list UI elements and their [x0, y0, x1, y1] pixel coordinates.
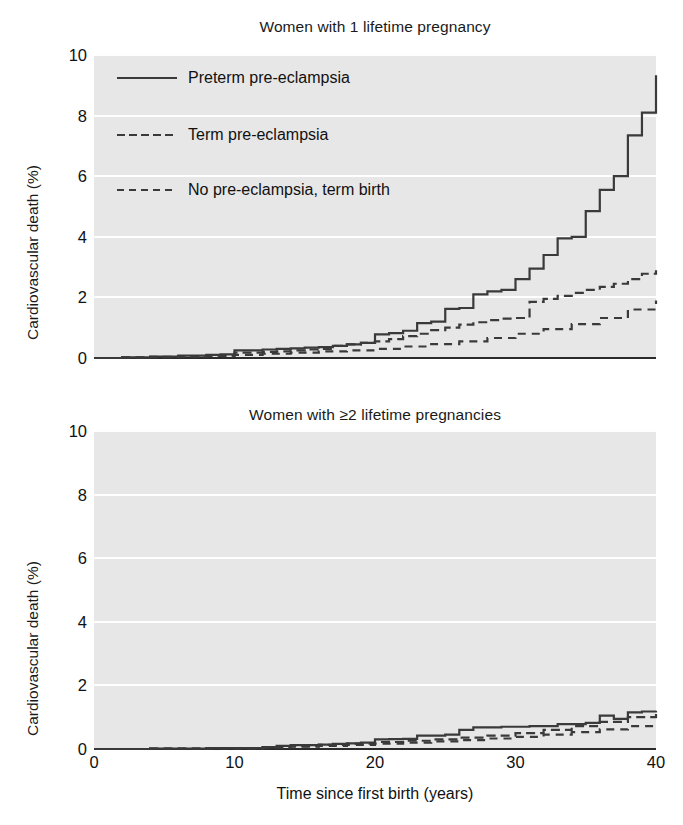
y-axis-tick-2: 2: [78, 288, 87, 307]
panel-bottom: Women with ≥2 lifetime pregnancies Cardi…: [0, 395, 683, 825]
curves-layer: [94, 431, 656, 749]
y-axis-tick-0: 0: [78, 740, 87, 759]
y-axis-tick-8: 8: [78, 106, 87, 125]
panel-top-y-axis-label: Cardiovascular death (%): [24, 165, 42, 340]
y-axis-tick-8: 8: [78, 485, 87, 504]
x-axis-tick-30: 30: [506, 753, 524, 772]
y-axis-tick-0: 0: [78, 349, 87, 368]
panel-top: Women with 1 lifetime pregnancy Cardiova…: [0, 0, 683, 395]
curves-layer: [94, 55, 656, 358]
panel-top-title: Women with 1 lifetime pregnancy: [94, 18, 656, 36]
panel-bottom-title: Women with ≥2 lifetime pregnancies: [94, 406, 656, 424]
curve-dashed-short: [94, 300, 656, 358]
y-axis-tick-6: 6: [78, 167, 87, 186]
x-axis-tick-40: 40: [647, 753, 665, 772]
y-axis-tick-4: 4: [78, 612, 87, 631]
figure-kaplan-meier-cardiovascular-death: Women with 1 lifetime pregnancy Cardiova…: [0, 0, 683, 825]
x-axis-tick-20: 20: [366, 753, 384, 772]
curve-dashed-short: [94, 723, 656, 749]
y-axis-tick-2: 2: [78, 676, 87, 695]
panel-bottom-y-axis-label: Cardiovascular death (%): [24, 561, 42, 736]
curve-dashed-long: [94, 270, 656, 358]
panel-bottom-plot-area: 0246810010203040: [94, 431, 656, 749]
y-axis-tick-6: 6: [78, 549, 87, 568]
panel-top-plot-area: Preterm pre-eclampsia Term pre-eclampsia: [94, 55, 656, 358]
y-axis-tick-10: 10: [69, 422, 87, 441]
x-axis-tick-10: 10: [225, 753, 243, 772]
y-axis-tick-10: 10: [69, 46, 87, 65]
y-axis-tick-4: 4: [78, 227, 87, 246]
curve-solid: [94, 75, 656, 358]
x-axis-label: Time since first birth (years): [94, 785, 656, 803]
x-axis-tick-0: 0: [89, 753, 98, 772]
